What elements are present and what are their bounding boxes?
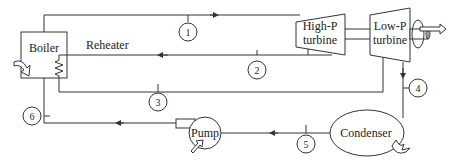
state-marker-6: 6 bbox=[23, 107, 41, 125]
state-marker-5: 5 bbox=[297, 135, 315, 153]
reheat-rankine-cycle-diagram: Boiler High-P turbine Low-P turbine bbox=[0, 0, 459, 164]
pump: Pump bbox=[176, 117, 221, 153]
low-p-turbine: Low-P turbine bbox=[370, 8, 410, 62]
svg-text:3: 3 bbox=[156, 97, 161, 108]
pump-label: Pump bbox=[191, 126, 219, 140]
svg-text:6: 6 bbox=[30, 111, 35, 122]
state-marker-3: 3 bbox=[149, 93, 167, 111]
line-state-5 bbox=[221, 125, 330, 133]
line-state-1 bbox=[44, 15, 300, 32]
svg-text:4: 4 bbox=[416, 83, 421, 94]
boiler-label: Boiler bbox=[29, 41, 59, 55]
work-output-icon bbox=[410, 20, 446, 48]
svg-text:5: 5 bbox=[304, 139, 309, 150]
condenser-label: Condenser bbox=[340, 126, 391, 140]
svg-text:1: 1 bbox=[186, 27, 191, 38]
reheater-label: Reheater bbox=[86, 38, 129, 52]
line-state-3 bbox=[59, 55, 383, 92]
condenser: Condenser bbox=[330, 110, 410, 156]
low-p-turbine-label-1: Low-P bbox=[374, 19, 407, 33]
svg-text:2: 2 bbox=[255, 65, 260, 76]
high-p-turbine-label-1: High-P bbox=[303, 19, 338, 33]
high-p-turbine-label-2: turbine bbox=[303, 33, 337, 47]
high-p-turbine: High-P turbine bbox=[296, 14, 345, 55]
low-p-turbine-label-2: turbine bbox=[373, 33, 407, 47]
state-marker-1: 1 bbox=[179, 23, 197, 41]
state-marker-4: 4 bbox=[409, 79, 427, 97]
state-marker-2: 2 bbox=[248, 61, 266, 79]
